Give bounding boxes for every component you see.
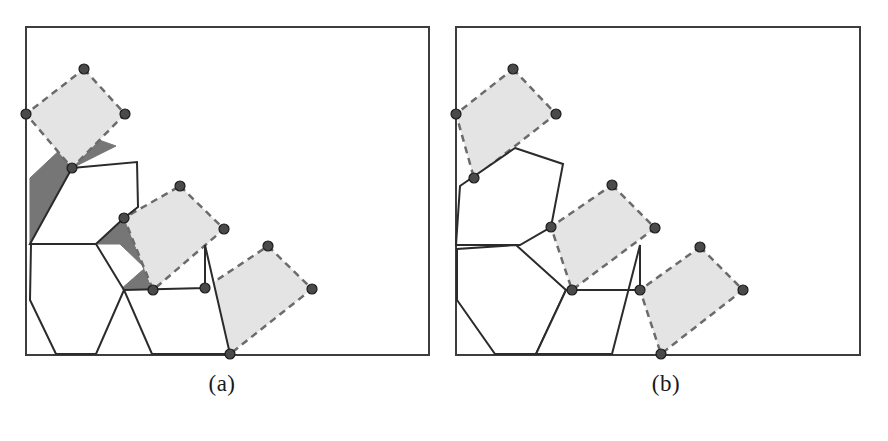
panel-b: (b) — [444, 0, 888, 441]
vertex-marker[interactable] — [551, 109, 561, 119]
panel-a-caption: (a) — [0, 372, 444, 395]
vertex-marker[interactable] — [635, 285, 645, 295]
vertex-marker[interactable] — [650, 223, 660, 233]
vertex-marker[interactable] — [307, 284, 317, 294]
rect-bottom-right[interactable] — [640, 247, 743, 354]
vertex-marker[interactable] — [120, 109, 130, 119]
vertex-marker[interactable] — [148, 285, 158, 295]
vertex-marker[interactable] — [225, 349, 235, 359]
vertex-marker[interactable] — [21, 109, 31, 119]
vertex-marker[interactable] — [567, 285, 577, 295]
panel-a: (a) — [0, 0, 444, 441]
vertex-marker[interactable] — [607, 180, 617, 190]
vertex-marker[interactable] — [451, 109, 461, 119]
vertex-marker[interactable] — [738, 285, 748, 295]
panel-b-canvas — [444, 0, 888, 372]
panel-a-canvas — [0, 0, 444, 372]
vertex-marker[interactable] — [508, 64, 518, 74]
vertex-marker[interactable] — [219, 224, 229, 234]
vertex-marker[interactable] — [200, 283, 210, 293]
polygon-hexagon[interactable] — [30, 244, 124, 354]
vertex-marker[interactable] — [695, 242, 705, 252]
vertex-marker[interactable] — [119, 213, 129, 223]
figure-root: (a) (b) — [0, 0, 888, 441]
vertex-marker[interactable] — [79, 64, 89, 74]
vertex-marker[interactable] — [175, 181, 185, 191]
rect-top-left[interactable] — [26, 69, 125, 168]
panel-b-caption: (b) — [444, 372, 888, 395]
vertex-marker[interactable] — [263, 241, 273, 251]
vertex-marker[interactable] — [656, 349, 666, 359]
vertex-marker[interactable] — [546, 222, 556, 232]
vertex-marker[interactable] — [469, 173, 479, 183]
vertex-marker[interactable] — [67, 163, 77, 173]
